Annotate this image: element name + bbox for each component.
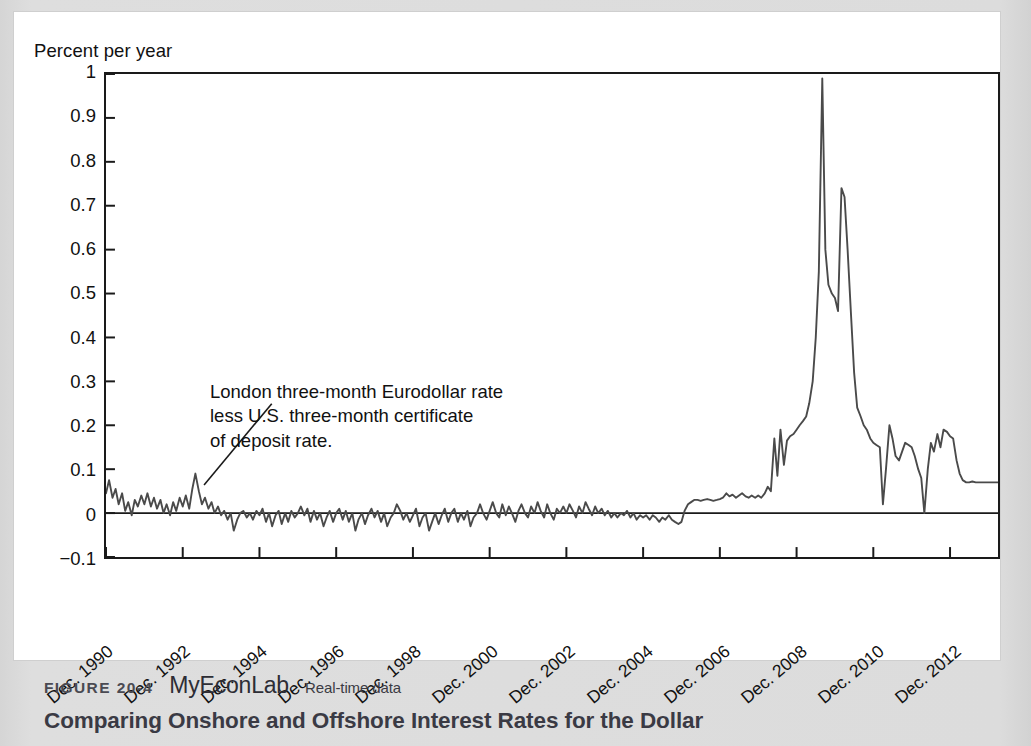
- y-tick-label: 0: [86, 504, 96, 526]
- figure-number: FIGURE 20-4: [44, 679, 153, 697]
- realtime-data-label: Real-time data: [305, 679, 401, 696]
- y-tick-label: 0.2: [70, 415, 96, 437]
- figure-title: Comparing Onshore and Offshore Interest …: [44, 708, 703, 734]
- page-background: Percent per year 10.90.80.70.60.50.40.30…: [0, 0, 1031, 746]
- y-tick-label: 0.6: [70, 238, 96, 260]
- y-tick-label: 0.4: [70, 327, 96, 349]
- figure-caption: FIGURE 20-4 MyEconLab Real-time data Com…: [14, 664, 1014, 746]
- y-tick-label: 0.3: [70, 371, 96, 393]
- caption-meta-row: FIGURE 20-4 MyEconLab Real-time data: [44, 672, 401, 698]
- plot-svg: [106, 74, 998, 557]
- y-tick-label: 0.1: [70, 459, 96, 481]
- data-series-line: [106, 78, 998, 530]
- y-tick-label: 1: [86, 61, 96, 83]
- x-axis-tick-labels: Dec. 1990Dec. 1992Dec. 1994Dec. 1996Dec.…: [104, 559, 1000, 659]
- chart-area: Percent per year 10.90.80.70.60.50.40.30…: [14, 12, 1000, 660]
- y-tick-label: 0.9: [70, 105, 96, 127]
- y-tick-label: 0.8: [70, 150, 96, 172]
- y-axis-tick-labels: 10.90.80.70.60.50.40.30.20.10−0.1: [14, 12, 96, 660]
- figure-card: Percent per year 10.90.80.70.60.50.40.30…: [14, 12, 1000, 660]
- y-tick-label: 0.7: [70, 194, 96, 216]
- plot-frame: [104, 72, 1000, 559]
- y-tick-label: −0.1: [59, 548, 96, 570]
- annotation-line-1: London three-month Eurodollar rate: [210, 380, 503, 404]
- myeconlab-logo: MyEconLab: [169, 672, 289, 699]
- y-tick-label: 0.5: [70, 282, 96, 304]
- series-annotation: London three-month Eurodollar rate less …: [210, 380, 503, 453]
- annotation-line-2: less U.S. three-month certificate: [210, 404, 503, 428]
- annotation-line-3: of deposit rate.: [210, 429, 503, 453]
